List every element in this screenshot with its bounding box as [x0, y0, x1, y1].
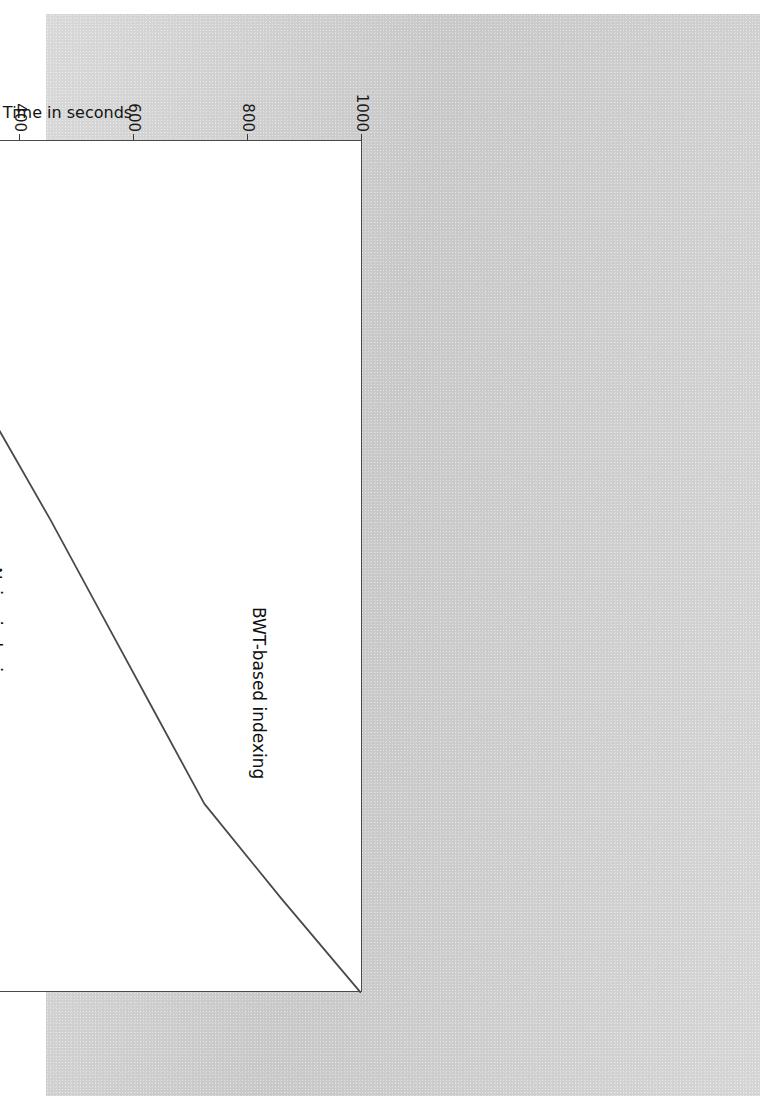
y-tickmark — [247, 134, 248, 140]
y-tickmark — [133, 134, 134, 140]
y-tickmark — [19, 134, 20, 140]
y-tick-label: 800 — [239, 74, 257, 132]
y-axis-title: Time in seconds — [0, 103, 218, 122]
series-annotation-bwt-based-indexing: BWT-based indexing — [249, 607, 269, 779]
chart-figure: 12345678910 02004006008001000 # of inser… — [0, 47, 397, 1047]
scanned-page: Comparison between the naive search meth… — [0, 0, 782, 1110]
y-tick-label: 1000 — [353, 74, 371, 132]
plot-svg — [0, 141, 361, 993]
series-annotation-naive-indexing: Naive indexing — [0, 567, 5, 694]
plot-area — [0, 140, 362, 992]
series-line-naive-indexing — [0, 141, 361, 993]
chart-rotation-wrapper: 12345678910 02004006008001000 # of inser… — [0, 47, 397, 1047]
y-tickmark — [361, 134, 362, 140]
